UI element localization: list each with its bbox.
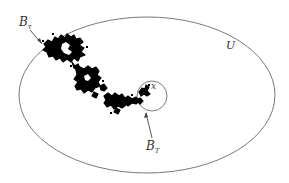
label-b-t: BT	[146, 140, 160, 152]
label-b-t-sub: T	[155, 147, 160, 155]
label-b-tau-main: B	[19, 15, 28, 29]
label-x: x	[151, 82, 156, 91]
brownian-path	[43, 34, 150, 114]
arrow-b-t-head	[144, 112, 148, 118]
label-b-tau-sub: τ	[28, 23, 32, 31]
label-u: U	[226, 40, 235, 51]
brownian-diagram	[0, 0, 289, 183]
label-b-t-main: B	[146, 139, 155, 153]
label-b-tau: Bτ	[19, 16, 32, 28]
